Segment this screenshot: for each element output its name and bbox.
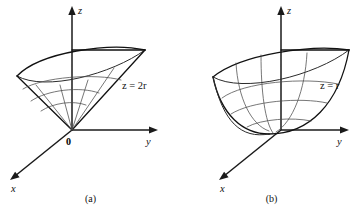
y-axis-label-a: y [145, 136, 151, 147]
caption-b: (b) [181, 193, 362, 204]
rim-near-arc-a [17, 50, 145, 82]
caption-a: (a) [0, 193, 181, 204]
x-axis-a [10, 130, 72, 180]
cone-diagram: z = 2r z y x 0 [0, 0, 181, 217]
profile-left-b [213, 77, 269, 134]
y-axis-b [281, 126, 349, 133]
figure-root: z = 2r z y x 0 (a) [0, 0, 362, 217]
panel-b: z = r z y x (b) [181, 0, 362, 217]
y-axis-a [72, 126, 158, 133]
z-axis-label-b: z [286, 5, 291, 16]
paraboloid-meridians-b [236, 53, 307, 133]
paraboloid-diagram: z = r z y x [181, 0, 362, 217]
y-axis-label-b: y [336, 136, 342, 147]
surface-label-a: z = 2r [122, 80, 147, 91]
origin-label-a: 0 [66, 136, 71, 147]
x-axis-b [219, 130, 281, 180]
panel-a: z = 2r z y x 0 (a) [0, 0, 181, 217]
surface-label-b: z = r [320, 80, 340, 91]
z-axis-label-a: z [77, 5, 82, 16]
